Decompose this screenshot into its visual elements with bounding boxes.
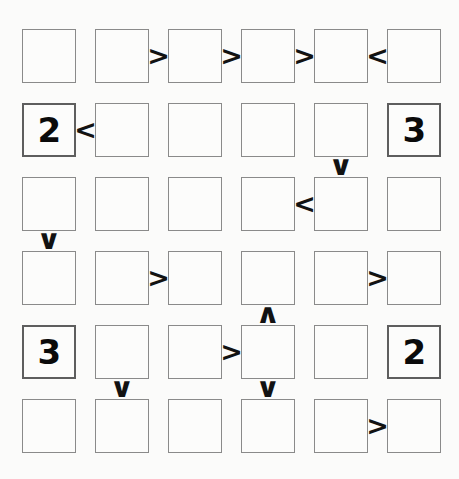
empty-cell-r3-c2[interactable] xyxy=(95,177,149,231)
greater-than-icon-r1-c4: > xyxy=(295,29,314,83)
greater-than-down-icon-r5-c4: ∨ xyxy=(241,379,295,399)
empty-cell-r6-c4[interactable] xyxy=(241,399,295,453)
less-than-icon-r3-c4: < xyxy=(295,177,314,231)
constraint-glyph: < xyxy=(293,190,316,217)
empty-cell-r1-c6[interactable] xyxy=(387,29,441,83)
empty-cell-r5-c5[interactable] xyxy=(314,325,368,379)
cell-value: 3 xyxy=(37,335,60,369)
empty-cell-r4-c5[interactable] xyxy=(314,251,368,305)
empty-cell-r1-c3[interactable] xyxy=(168,29,222,83)
empty-cell-r1-c2[interactable] xyxy=(95,29,149,83)
empty-cell-r6-c2[interactable] xyxy=(95,399,149,453)
greater-than-icon-r5-c3: > xyxy=(222,325,241,379)
empty-cell-r4-c1[interactable] xyxy=(22,251,76,305)
constraint-glyph: > xyxy=(147,42,170,69)
constraint-glyph: ∨ xyxy=(255,374,280,401)
empty-cell-r6-c6[interactable] xyxy=(387,399,441,453)
empty-cell-r5-c3[interactable] xyxy=(168,325,222,379)
empty-cell-r1-c5[interactable] xyxy=(314,29,368,83)
given-cell-r2-c1[interactable]: 2 xyxy=(22,103,76,157)
empty-cell-r1-c1[interactable] xyxy=(22,29,76,83)
constraint-glyph: ∨ xyxy=(328,152,353,179)
constraint-glyph: > xyxy=(220,338,243,365)
empty-cell-r1-c4[interactable] xyxy=(241,29,295,83)
empty-cell-r3-c3[interactable] xyxy=(168,177,222,231)
constraint-glyph: < xyxy=(74,116,97,143)
given-cell-r5-c6[interactable]: 2 xyxy=(387,325,441,379)
given-cell-r2-c6[interactable]: 3 xyxy=(387,103,441,157)
constraint-glyph: ∨ xyxy=(36,226,61,253)
greater-than-down-icon-r2-c5: ∨ xyxy=(314,157,368,177)
less-than-up-icon-r4-c4: ∧ xyxy=(241,305,295,325)
constraint-glyph: ∧ xyxy=(255,300,280,327)
cell-value: 3 xyxy=(402,113,425,147)
empty-cell-r3-c4[interactable] xyxy=(241,177,295,231)
futoshiki-puzzle: 2332>>><<<>>>>∨∨∧∨∨ xyxy=(0,0,459,479)
empty-cell-r4-c2[interactable] xyxy=(95,251,149,305)
empty-cell-r6-c3[interactable] xyxy=(168,399,222,453)
greater-than-down-icon-r3-c1: ∨ xyxy=(22,231,76,251)
empty-cell-r2-c3[interactable] xyxy=(168,103,222,157)
empty-cell-r2-c2[interactable] xyxy=(95,103,149,157)
cell-value: 2 xyxy=(37,113,60,147)
greater-than-icon-r4-c5: > xyxy=(368,251,387,305)
less-than-icon-r1-c5: < xyxy=(368,29,387,83)
constraint-glyph: > xyxy=(220,42,243,69)
less-than-icon-r2-c1: < xyxy=(76,103,95,157)
greater-than-icon-r1-c3: > xyxy=(222,29,241,83)
cell-value: 2 xyxy=(402,335,425,369)
empty-cell-r3-c6[interactable] xyxy=(387,177,441,231)
empty-cell-r6-c1[interactable] xyxy=(22,399,76,453)
greater-than-icon-r6-c5: > xyxy=(368,399,387,453)
given-cell-r5-c1[interactable]: 3 xyxy=(22,325,76,379)
greater-than-icon-r4-c2: > xyxy=(149,251,168,305)
greater-than-down-icon-r5-c2: ∨ xyxy=(95,379,149,399)
constraint-glyph: > xyxy=(366,264,389,291)
constraint-glyph: ∨ xyxy=(109,374,134,401)
constraint-glyph: > xyxy=(293,42,316,69)
constraint-glyph: < xyxy=(366,42,389,69)
constraint-glyph: > xyxy=(366,412,389,439)
empty-cell-r3-c5[interactable] xyxy=(314,177,368,231)
empty-cell-r4-c3[interactable] xyxy=(168,251,222,305)
empty-cell-r4-c6[interactable] xyxy=(387,251,441,305)
puzzle-grid: 2332>>><<<>>>>∨∨∧∨∨ xyxy=(0,0,459,479)
greater-than-icon-r1-c2: > xyxy=(149,29,168,83)
empty-cell-r2-c4[interactable] xyxy=(241,103,295,157)
empty-cell-r6-c5[interactable] xyxy=(314,399,368,453)
constraint-glyph: > xyxy=(147,264,170,291)
